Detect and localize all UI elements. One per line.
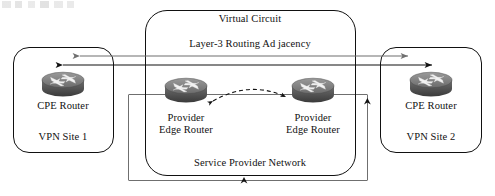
router-icon — [40, 69, 86, 99]
router-icon — [290, 75, 336, 105]
cpe-router-1-label: CPE Router — [37, 100, 88, 112]
provider-edge-router-1-label: Provider Edge Router — [159, 112, 213, 136]
pe-2-label-line2: Edge Router — [286, 124, 340, 136]
cpe-router-2-label: CPE Router — [405, 100, 456, 112]
router-icon — [163, 75, 209, 105]
pe-to-pe-virtual-circuit-arc — [213, 89, 286, 101]
provider-edge-router-2-label: Provider Edge Router — [286, 112, 340, 136]
router-icon — [408, 69, 454, 99]
service-provider-path-right-arrow — [364, 98, 371, 104]
pe-1-label-line2: Edge Router — [159, 124, 213, 136]
diagram-canvas: Virtual Circuit Layer-3 Routing Ad jacen… — [0, 0, 495, 196]
pe-2-label-line1: Provider — [295, 112, 332, 123]
vpn-site-2-label: VPN Site 2 — [407, 131, 456, 143]
layer3-routing-adjacency-label: Layer-3 Routing Ad jacency — [189, 38, 311, 50]
vpn-site-1-label: VPN Site 1 — [39, 131, 88, 143]
service-provider-network-label: Service Provider Network — [194, 157, 306, 169]
service-provider-path-bottom-arrow — [241, 177, 248, 183]
pe-1-label-line1: Provider — [168, 112, 205, 123]
virtual-circuit-label: Virtual Circuit — [219, 13, 281, 25]
